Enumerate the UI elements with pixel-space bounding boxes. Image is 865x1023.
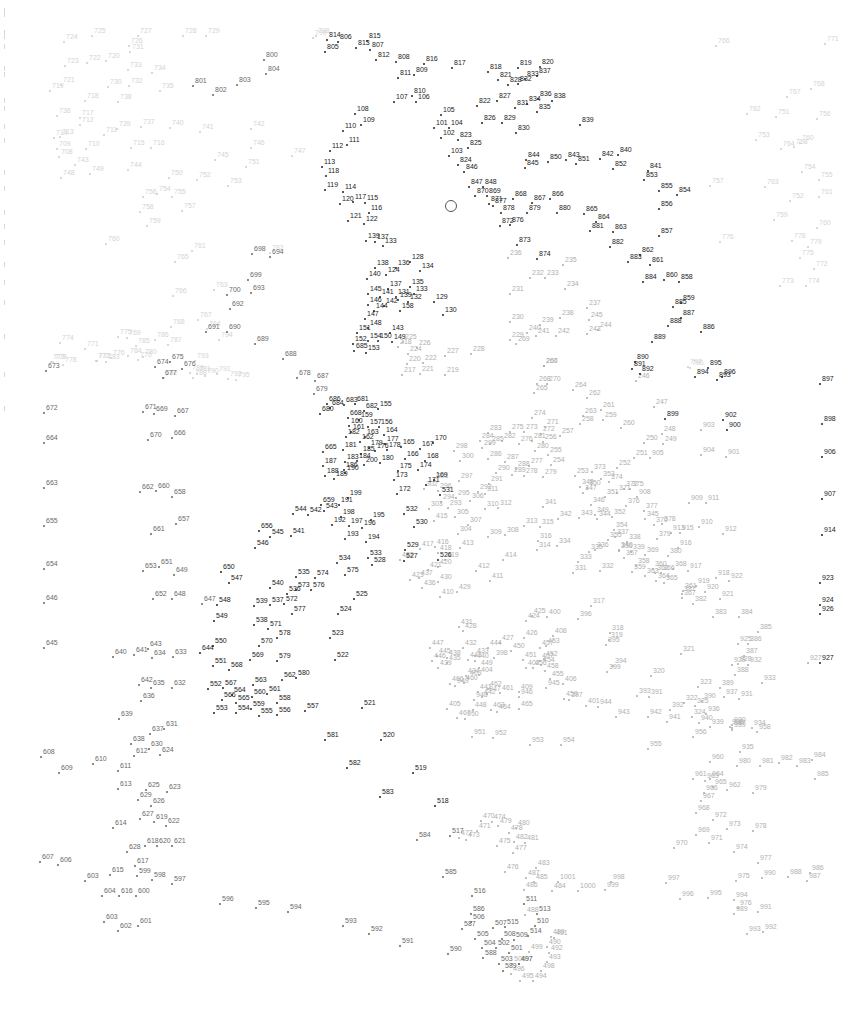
dot-number-label: 854 bbox=[679, 186, 691, 194]
dot-number-label: 411 bbox=[492, 572, 503, 580]
dot-number-label: 923 bbox=[822, 574, 834, 582]
dot-marker bbox=[692, 736, 694, 738]
dot-marker bbox=[588, 319, 590, 321]
dot-marker bbox=[364, 318, 366, 320]
dot-marker bbox=[644, 554, 646, 556]
dot-marker bbox=[582, 492, 584, 494]
dot-marker bbox=[474, 660, 476, 662]
dot-marker bbox=[171, 496, 173, 498]
dot-number-label: 299 bbox=[484, 439, 496, 447]
dot-number-label: 332 bbox=[602, 562, 614, 570]
dot-marker bbox=[58, 156, 60, 158]
dot-number-label: 866 bbox=[552, 190, 564, 198]
dot-marker bbox=[536, 383, 538, 385]
dot-number-label: 693 bbox=[253, 284, 265, 292]
dot-number-label: 818 bbox=[490, 63, 502, 71]
dot-number-label: 384 bbox=[741, 608, 753, 616]
dot-marker bbox=[365, 352, 367, 354]
dot-number-label: 447 bbox=[432, 639, 444, 647]
dot-marker bbox=[712, 616, 714, 618]
dot-marker bbox=[551, 890, 553, 892]
dot-marker bbox=[258, 530, 260, 532]
dot-number-label: 569 bbox=[252, 651, 264, 659]
dot-marker bbox=[363, 223, 365, 225]
dot-marker bbox=[467, 524, 469, 526]
dot-number-label: 694 bbox=[272, 248, 284, 256]
dot-marker bbox=[481, 122, 483, 124]
dot-number-label: 481 bbox=[527, 834, 539, 842]
dot-marker bbox=[366, 278, 368, 280]
dot-number-label: 669 bbox=[156, 405, 168, 413]
dot-number-label: 988 bbox=[790, 868, 802, 876]
dot-marker bbox=[568, 699, 570, 701]
dot-number-label: 263 bbox=[585, 407, 597, 415]
dot-number-label: 574 bbox=[317, 569, 329, 577]
dot-marker bbox=[681, 593, 683, 595]
dot-number-label: 845 bbox=[527, 159, 539, 167]
dot-number-label: 626 bbox=[153, 797, 165, 805]
dot-number-label: 917 bbox=[690, 562, 702, 570]
dot-marker bbox=[251, 253, 253, 255]
dot-marker bbox=[579, 124, 581, 126]
dot-number-label: 811 bbox=[400, 69, 411, 77]
edge-tick bbox=[4, 186, 5, 191]
dot-marker bbox=[709, 726, 711, 728]
edge-tick bbox=[4, 44, 5, 49]
dot-marker bbox=[458, 837, 460, 839]
dot-number-label: 623 bbox=[169, 783, 181, 791]
dot-marker bbox=[729, 726, 731, 728]
dot-number-label: 175 bbox=[400, 462, 412, 470]
dot-number-label: 491 bbox=[556, 929, 568, 937]
dot-number-label: 754 bbox=[159, 185, 171, 193]
dot-number-label: 516 bbox=[474, 887, 486, 895]
dot-number-label: 180 bbox=[382, 454, 394, 462]
dot-marker bbox=[165, 825, 167, 827]
dot-marker bbox=[704, 780, 706, 782]
dot-number-label: 368 bbox=[675, 560, 687, 568]
dot-number-label: 857 bbox=[661, 227, 673, 235]
dot-marker bbox=[528, 951, 530, 953]
dot-number-label: 303 bbox=[431, 500, 443, 508]
dot-marker bbox=[220, 571, 222, 573]
dot-number-label: 771 bbox=[827, 35, 839, 43]
dot-number-label: 238 bbox=[562, 309, 574, 317]
dot-marker bbox=[564, 288, 566, 290]
dot-marker bbox=[487, 647, 489, 649]
dot-number-label: 117 bbox=[355, 193, 366, 201]
dot-number-label: 625 bbox=[148, 781, 160, 789]
dot-marker bbox=[380, 739, 382, 741]
dot-marker bbox=[461, 928, 463, 930]
dot-marker bbox=[669, 709, 671, 711]
dot-marker bbox=[205, 331, 207, 333]
dot-marker bbox=[518, 691, 520, 693]
dot-marker bbox=[775, 116, 777, 118]
dot-marker bbox=[453, 450, 455, 452]
dot-marker bbox=[752, 830, 754, 832]
dot-number-label: 819 bbox=[520, 59, 532, 67]
dot-number-label: 606 bbox=[60, 856, 72, 864]
dot-marker bbox=[559, 435, 561, 437]
dot-marker bbox=[107, 86, 109, 88]
dot-marker bbox=[400, 446, 402, 448]
dot-marker bbox=[355, 47, 357, 49]
dot-number-label: 580 bbox=[298, 669, 310, 677]
dot-marker bbox=[168, 177, 170, 179]
dot-marker bbox=[694, 376, 696, 378]
dot-marker bbox=[705, 713, 707, 715]
dot-marker bbox=[296, 377, 298, 379]
dot-number-label: 548 bbox=[219, 596, 231, 604]
dot-number-label: 193 bbox=[347, 530, 359, 538]
dot-marker bbox=[345, 436, 347, 438]
dot-marker bbox=[731, 664, 733, 666]
dot-number-label: 198 bbox=[343, 508, 355, 516]
dot-number-label: 291 bbox=[491, 475, 503, 483]
dot-marker bbox=[462, 647, 464, 649]
edge-tick bbox=[4, 106, 5, 111]
dot-marker bbox=[586, 487, 588, 489]
dot-to-dot-canvas: 7247257277267287297237227207317337347217… bbox=[0, 0, 865, 1023]
dot-number-label: 155 bbox=[380, 400, 392, 408]
dot-number-label: 228 bbox=[473, 345, 485, 353]
dot-marker bbox=[608, 481, 610, 483]
dot-number-label: 540 bbox=[272, 579, 284, 587]
dot-number-label: 881 bbox=[592, 222, 604, 230]
